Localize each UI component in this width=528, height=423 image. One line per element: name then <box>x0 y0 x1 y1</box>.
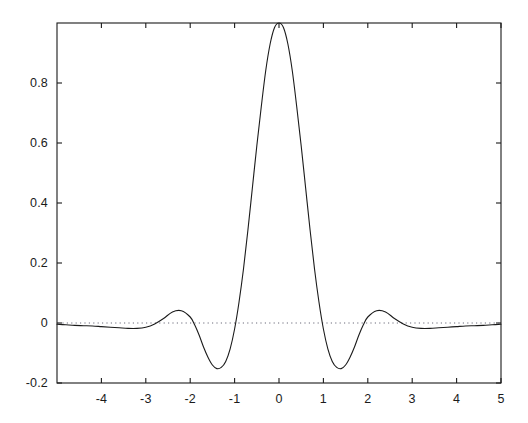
y-tick-label: 0.6 <box>0 136 48 150</box>
y-tick-label: 0.8 <box>0 76 48 90</box>
chart-figure: -0.200.20.40.60.8 -4-3-2-1012345 <box>0 0 528 423</box>
x-tick-label: 5 <box>497 392 504 406</box>
x-tick-label: 3 <box>409 392 416 406</box>
data-series-line <box>57 23 501 369</box>
y-tick-label: -0.2 <box>0 376 48 390</box>
plot-frame <box>57 23 501 383</box>
plot-canvas <box>0 0 528 423</box>
x-tick-label: -4 <box>96 392 108 406</box>
x-tick-label: -2 <box>184 392 196 406</box>
y-tick-label: 0.2 <box>0 256 48 270</box>
x-tick-label: 0 <box>275 392 282 406</box>
y-tick-label: 0.4 <box>0 196 48 210</box>
x-tick-label: 2 <box>364 392 371 406</box>
axes-box <box>57 23 501 383</box>
y-tick-marks <box>57 83 501 383</box>
x-tick-label: -3 <box>140 392 152 406</box>
x-tick-marks <box>101 23 501 383</box>
x-tick-label: 1 <box>320 392 327 406</box>
y-tick-label: 0 <box>0 316 48 330</box>
x-tick-label: 4 <box>453 392 460 406</box>
x-tick-label: -1 <box>229 392 241 406</box>
